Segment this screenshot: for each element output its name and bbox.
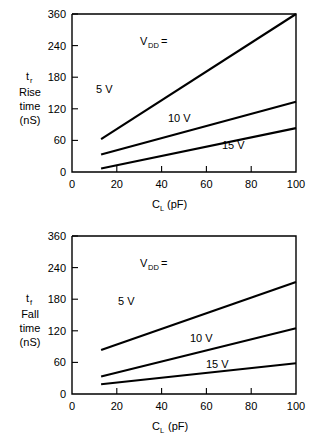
vdd-annotation-tail: = [161,257,167,269]
y-axis-title-line2: time [20,100,41,112]
vdd-annotation-sub: DD [148,41,159,50]
x-tick-label: 60 [200,178,212,190]
y-tick-label: 240 [48,262,66,274]
curve-label-5v: 5 V [118,295,135,307]
chart-rise-time: 360 240 180 120 60 0 0 20 40 60 80 [0,0,316,215]
y-axis-tick-labels: 360 240 180 120 60 0 [48,8,66,178]
y-tick-label: 0 [60,166,66,178]
vdd-annotation: V DD = [140,35,167,50]
y-tick-label: 360 [48,8,66,20]
x-tick-label: 80 [245,178,257,190]
vdd-annotation: V DD = [140,257,167,272]
curve-label-5v: 5 V [96,83,113,95]
x-axis-ticks [117,166,251,172]
y-axis-symbol: t [26,292,29,304]
x-axis-title: C L (pF) [152,198,187,213]
y-axis-title-line3: (nS) [20,114,41,126]
x-axis-title-main: C [152,420,160,432]
curve-label-10v: 10 V [190,332,213,344]
y-axis-ticks [72,236,78,362]
x-axis-tick-labels: 0 20 40 60 80 100 [69,400,305,412]
y-axis-title-line3: (nS) [20,336,41,348]
chart-rise-time-svg: 360 240 180 120 60 0 0 20 40 60 80 [0,0,316,215]
figure-container: 360 240 180 120 60 0 0 20 40 60 80 [0,0,316,443]
y-axis-title-line2: time [20,322,41,334]
x-axis-tick-labels: 0 20 40 60 80 100 [69,178,305,190]
y-tick-label: 60 [54,356,66,368]
curve-10v [101,102,296,155]
y-tick-label: 120 [48,103,66,115]
y-tick-label: 120 [48,325,66,337]
y-tick-label: 360 [48,230,66,242]
vdd-annotation-main: V [140,35,148,47]
x-axis-title-unit: (pF) [168,420,188,432]
y-tick-label: 240 [48,40,66,52]
x-axis-title-unit: (pF) [167,198,187,210]
x-axis-ticks [117,388,251,394]
chart-fall-time-svg: 360 240 180 120 60 0 0 20 40 60 80 100 [0,222,316,437]
y-tick-label: 180 [48,71,66,83]
y-axis-symbol-sub: r [30,76,33,85]
curve-label-15v: 15 V [222,139,245,151]
x-axis-title: C L (pF) [152,420,188,435]
curve-15v [101,363,296,384]
x-tick-label: 80 [245,400,257,412]
y-axis-title: t r Rise time (nS) [19,70,41,126]
x-tick-label: 40 [155,178,167,190]
y-axis-ticks [72,14,78,140]
vdd-annotation-sub: DD [148,263,159,272]
y-axis-title-line1: Rise [19,86,41,98]
y-axis-symbol: t [26,70,29,82]
x-axis-title-sub: L [160,426,164,435]
x-axis-title-sub: L [160,204,164,213]
x-tick-label: 0 [69,400,75,412]
vdd-annotation-main: V [140,257,148,269]
y-axis-title-line1: Fall [21,308,39,320]
y-tick-label: 180 [48,293,66,305]
x-tick-label: 20 [111,178,123,190]
vdd-annotation-tail: = [161,35,167,47]
y-tick-label: 60 [54,134,66,146]
x-tick-label: 60 [200,400,212,412]
x-tick-label: 40 [155,400,167,412]
x-tick-label: 20 [111,400,123,412]
x-axis-title-main: C [152,198,160,210]
x-tick-label: 100 [287,400,305,412]
y-tick-label: 0 [60,388,66,400]
plot-frame [72,236,296,394]
curve-label-15v: 15 V [206,358,229,370]
chart-fall-time: 360 240 180 120 60 0 0 20 40 60 80 100 [0,222,316,437]
y-axis-tick-labels: 360 240 180 120 60 0 [48,230,66,400]
curve-label-10v: 10 V [168,112,191,124]
y-axis-symbol-sub: f [30,298,33,307]
x-tick-label: 100 [287,178,305,190]
curve-15v [101,128,296,168]
x-tick-label: 0 [69,178,75,190]
y-axis-title: t f Fall time (nS) [20,292,41,348]
curve-5v [101,14,296,139]
